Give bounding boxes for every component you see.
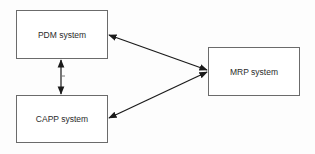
node-label: PDM system bbox=[38, 30, 86, 40]
node-label: CAPP system bbox=[36, 114, 88, 124]
diagram-canvas: PDM system CAPP system MRP system bbox=[0, 0, 315, 154]
node-capp-system: CAPP system bbox=[16, 95, 108, 143]
edge-pdm-mrp bbox=[109, 35, 207, 70]
node-mrp-system: MRP system bbox=[208, 47, 300, 96]
edge-capp-mrp bbox=[109, 72, 207, 118]
node-label: MRP system bbox=[230, 67, 278, 77]
node-pdm-system: PDM system bbox=[16, 10, 108, 59]
